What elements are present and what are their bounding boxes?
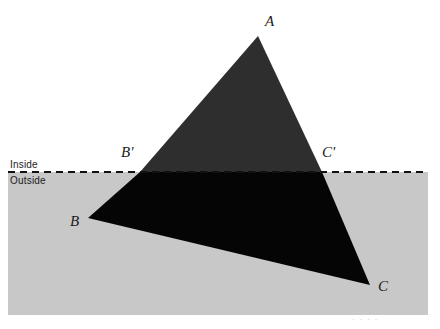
scan-artifact-text: · · · · (352, 314, 379, 324)
vertex-label-b-prime: B' (121, 145, 133, 160)
diagram-canvas (0, 0, 440, 329)
vertex-label-b: B (70, 214, 79, 229)
vertex-label-a: A (265, 14, 274, 29)
region-label-outside: Outside (10, 176, 46, 186)
vertex-label-c-prime: C' (322, 145, 335, 160)
region-label-inside: Inside (10, 160, 38, 170)
vertex-label-c: C (378, 279, 388, 294)
clipping-diagram: Inside Outside A B' C' B C · · · · (0, 0, 440, 329)
